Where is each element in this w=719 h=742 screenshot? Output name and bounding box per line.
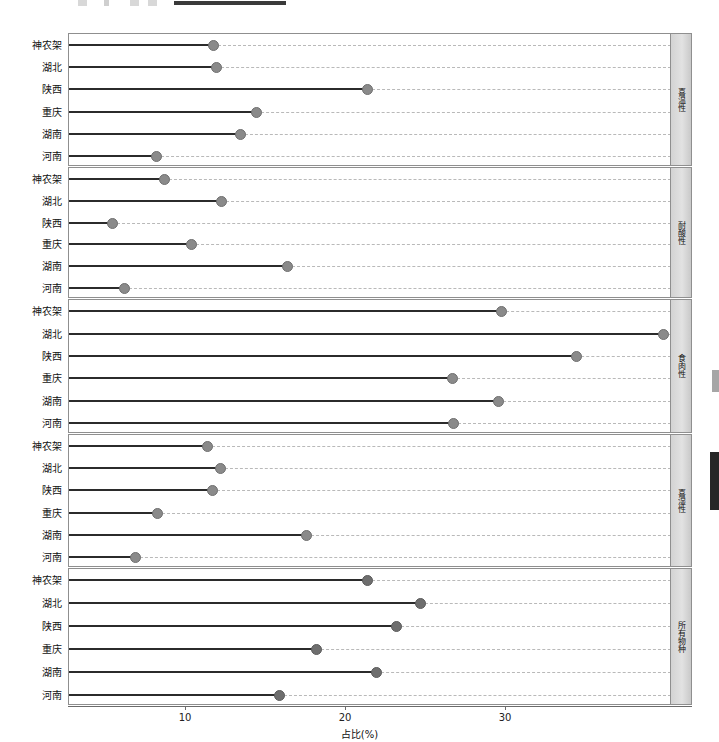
edge-smudge-lower — [710, 452, 719, 510]
row-guide-line — [453, 423, 671, 424]
row-guide-line — [135, 557, 671, 558]
facet-plot-area — [69, 435, 691, 566]
lollipop-dot[interactable] — [658, 329, 669, 340]
lollipop-dot[interactable] — [235, 129, 246, 140]
lollipop-dot[interactable] — [186, 239, 197, 250]
lollipop-dot[interactable] — [130, 552, 141, 563]
row-guide-line — [124, 288, 671, 289]
y-axis-category-label: 陕西 — [0, 482, 62, 497]
lollipop-dot[interactable] — [152, 508, 163, 519]
lollipop-stem — [69, 44, 213, 46]
lollipop-stem — [69, 556, 135, 558]
y-axis-category-label: 河南 — [0, 686, 62, 701]
lollipop-stem — [69, 265, 287, 267]
facet-strip: 所有物种 — [670, 568, 692, 705]
y-axis-category-label: 重庆 — [0, 103, 62, 118]
facet-plot-area — [69, 168, 691, 297]
lollipop-stem — [69, 579, 367, 581]
lollipop-dot[interactable] — [211, 62, 222, 73]
x-axis-title: 占比(%) — [0, 726, 719, 741]
x-tick-label-20: 20 — [339, 712, 352, 723]
row-guide-line — [576, 356, 671, 357]
x-tick-label-30: 30 — [499, 712, 512, 723]
lollipop-stem — [69, 310, 501, 312]
row-guide-line — [287, 266, 671, 267]
y-axis-category-label: 陕西 — [0, 618, 62, 633]
lollipop-dot[interactable] — [496, 306, 507, 317]
artifact-glyph-4 — [148, 0, 157, 6]
y-axis-category-label: 湖北 — [0, 460, 62, 475]
lollipop-dot[interactable] — [251, 107, 262, 118]
row-guide-line — [157, 513, 671, 514]
row-guide-line — [452, 378, 671, 379]
y-axis-category-label: 神农架 — [0, 572, 62, 587]
facet-strip: 喜温性 — [670, 33, 692, 166]
lollipop-dot[interactable] — [215, 463, 226, 474]
y-axis-category-label: 重庆 — [0, 504, 62, 519]
facet-strip-label: 食肉性 — [676, 354, 687, 378]
lollipop-dot[interactable] — [202, 441, 213, 452]
facet-panel — [68, 167, 692, 298]
row-guide-line — [376, 672, 671, 673]
lollipop-dot[interactable] — [362, 84, 373, 95]
y-axis-category-label: 重庆 — [0, 236, 62, 251]
lollipop-dot[interactable] — [311, 644, 322, 655]
lollipop-dot[interactable] — [216, 196, 227, 207]
row-guide-line — [156, 156, 671, 157]
lollipop-dot[interactable] — [448, 418, 459, 429]
row-guide-line — [164, 179, 671, 180]
row-guide-line — [306, 535, 671, 536]
y-axis-category-label: 湖南 — [0, 663, 62, 678]
x-tick-label-10: 10 — [179, 712, 192, 723]
x-tick-10 — [185, 706, 186, 710]
row-guide-line — [213, 45, 671, 46]
row-guide-line — [367, 89, 671, 90]
lollipop-stem — [69, 489, 212, 491]
lollipop-stem — [69, 377, 452, 379]
facet-strip: 喜湿性 — [670, 434, 692, 567]
row-guide-line — [220, 468, 671, 469]
lollipop-dot[interactable] — [447, 373, 458, 384]
artifact-glyph-2 — [104, 0, 109, 6]
facet-strip-label: 喜温性 — [676, 88, 687, 112]
lollipop-dot[interactable] — [301, 530, 312, 541]
lollipop-dot[interactable] — [362, 575, 373, 586]
lollipop-dot[interactable] — [119, 283, 130, 294]
y-axis-category-label: 湖北 — [0, 595, 62, 610]
artifact-glyph-1 — [78, 0, 87, 6]
lollipop-dot[interactable] — [415, 598, 426, 609]
lollipop-stem — [69, 243, 191, 245]
lollipop-dot[interactable] — [151, 151, 162, 162]
y-axis-category-label: 陕西 — [0, 347, 62, 362]
lollipop-stem — [69, 625, 396, 627]
lollipop-stem — [69, 422, 453, 424]
lollipop-stem — [69, 467, 220, 469]
y-axis-category-label: 湖南 — [0, 125, 62, 140]
lollipop-dot[interactable] — [159, 174, 170, 185]
y-axis-category-label: 重庆 — [0, 370, 62, 385]
lollipop-stem — [69, 671, 376, 673]
y-axis-category-label: 湖南 — [0, 526, 62, 541]
y-axis-category-label: 河南 — [0, 414, 62, 429]
y-axis-category-label: 湖南 — [0, 258, 62, 273]
lollipop-dot[interactable] — [371, 667, 382, 678]
facet-panel — [68, 434, 692, 567]
y-axis-category-label: 神农架 — [0, 303, 62, 318]
x-axis-line — [68, 706, 692, 707]
lollipop-dot[interactable] — [571, 351, 582, 362]
y-axis-category-label: 陕西 — [0, 81, 62, 96]
lollipop-dot[interactable] — [208, 40, 219, 51]
y-axis-category-label: 神农架 — [0, 170, 62, 185]
lollipop-dot[interactable] — [493, 396, 504, 407]
lollipop-dot[interactable] — [207, 485, 218, 496]
lollipop-stem — [69, 178, 164, 180]
lollipop-dot[interactable] — [274, 690, 285, 701]
lollipop-dot[interactable] — [107, 218, 118, 229]
facet-strip-label: 喜湿性 — [676, 489, 687, 513]
facet-plot-area — [69, 300, 691, 432]
facet-plot-area — [69, 569, 691, 704]
lollipop-stem — [69, 155, 156, 157]
row-guide-line — [112, 223, 671, 224]
lollipop-dot[interactable] — [391, 621, 402, 632]
lollipop-dot[interactable] — [282, 261, 293, 272]
